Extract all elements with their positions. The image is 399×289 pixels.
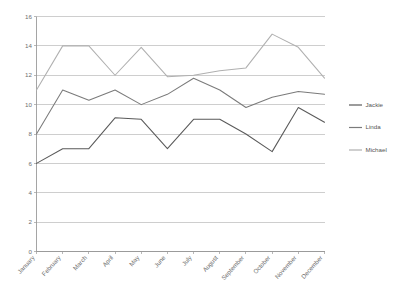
legend-label: Linda [366, 123, 382, 130]
y-tick-label: 14 [25, 42, 32, 49]
y-tick-label: 16 [25, 13, 32, 20]
x-tick-label: December [299, 254, 323, 280]
x-tick-label: August [201, 254, 219, 273]
x-tick-label: March [71, 254, 88, 272]
series-line-linda[interactable] [37, 78, 325, 134]
line-chart: 1614121086420JanuaryFebruaryMarchAprilMa… [0, 0, 399, 289]
x-tick-label: January [16, 253, 37, 275]
legend: JackieLindaMichael [349, 101, 387, 153]
x-tick-label: September [220, 254, 245, 281]
y-tick-label: 8 [29, 130, 33, 137]
legend-item-linda[interactable]: Linda [349, 123, 381, 130]
y-tick-label: 4 [29, 189, 33, 196]
legend-item-michael[interactable]: Michael [349, 146, 387, 153]
y-tick-label: 10 [25, 101, 32, 108]
x-tick-label: April [101, 254, 114, 268]
legend-item-jackie[interactable]: Jackie [349, 101, 384, 108]
y-tick-label: 0 [29, 248, 33, 255]
x-tick-label: October [251, 254, 271, 275]
x-tick-label: July [180, 253, 193, 267]
chart-canvas: 1614121086420JanuaryFebruaryMarchAprilMa… [0, 0, 399, 289]
x-tick-label: February [40, 253, 62, 277]
series-line-jackie[interactable] [37, 108, 325, 164]
series-line-michael[interactable] [37, 34, 325, 90]
y-tick-labels-group: 1614121086420 [25, 13, 36, 255]
y-tick-label: 2 [29, 218, 33, 225]
x-tick-label: June [152, 254, 167, 269]
x-tick-label: November [273, 254, 297, 280]
series-group [37, 34, 325, 163]
legend-label: Michael [366, 146, 387, 153]
y-tick-label: 6 [29, 160, 33, 167]
y-tick-label: 12 [25, 71, 32, 78]
x-tick-label: May [127, 253, 141, 267]
legend-label: Jackie [366, 101, 384, 108]
x-tick-labels-group: JanuaryFebruaryMarchAprilMayJuneJulyAugu… [16, 252, 325, 282]
